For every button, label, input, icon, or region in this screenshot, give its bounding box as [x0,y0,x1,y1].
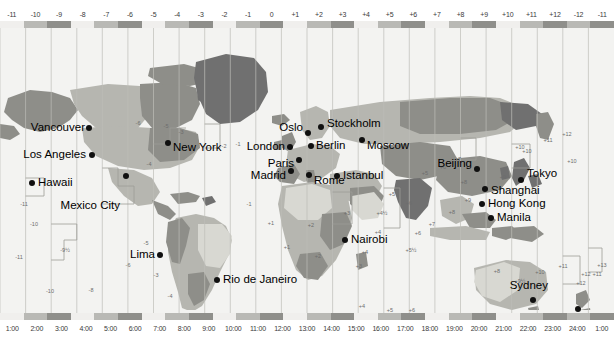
zone-offset-note: +5 [389,191,395,197]
city-label: Hong Kong [488,198,546,210]
world-landmass-graphic [0,28,614,313]
city-marker[interactable] [575,306,581,312]
city-marker[interactable] [123,173,129,179]
zone-offset-note: -3 [179,129,184,135]
utc-offset-tick: +6 [409,11,417,18]
timezone-band-cell [118,21,142,28]
city-marker[interactable] [308,143,314,149]
utc-offset-tick: +5 [386,11,394,18]
city-marker[interactable] [318,124,324,130]
city-marker[interactable] [482,186,488,192]
local-time-ruler: 1:002:003:004:005:006:007:008:009:0010:0… [0,320,614,341]
city-label: Oslo [279,122,303,134]
city-marker[interactable] [306,172,312,178]
timezone-band-cell [449,313,473,320]
utc-offset-tick: -9 [56,11,62,18]
utc-offset-tick: -5 [151,11,157,18]
city-marker[interactable] [488,215,494,221]
city-marker[interactable] [530,297,536,303]
city-label: Hawaii [38,177,73,189]
timezone-band-cell [24,313,48,320]
zone-offset-note: +5 [422,170,428,176]
city-marker[interactable] [89,152,95,158]
timezone-band-cell [283,313,307,320]
timezone-band-cell [472,313,496,320]
timezone-band-cell [520,313,544,320]
local-time-tick: 3:00 [55,325,68,332]
timezone-band-cell [24,21,48,28]
zone-offset-note: +8 [494,268,500,274]
local-time-tick: 6:00 [129,325,142,332]
zone-offset-note: +7 [429,221,435,227]
local-time-tick: 2:00 [30,325,43,332]
city-marker[interactable] [359,137,365,143]
timezone-band-cell [472,21,496,28]
timezone-band-cell [0,313,24,320]
city-marker[interactable] [287,144,293,150]
timezone-band-cell [520,21,544,28]
zone-offset-note: +5½ [406,247,417,253]
utc-offset-tick: -8 [80,11,86,18]
city-marker[interactable] [165,140,171,146]
zone-offset-note: +10 [515,144,524,150]
zone-offset-note: -6 [126,262,131,268]
zone-offset-note: -10 [46,288,54,294]
local-time-tick: 20:00 [471,325,488,332]
city-marker[interactable] [296,157,302,163]
city-label: Vancouver [31,122,85,134]
utc-offset-tick: 0 [270,11,274,18]
local-time-tick: 11:00 [250,325,266,332]
timezone-band-cell [260,21,284,28]
zone-offset-note: +9 [500,174,506,180]
local-time-tick: 24:00 [569,325,586,332]
city-marker[interactable] [305,130,311,136]
city-marker[interactable] [474,166,480,172]
city-label: Madrid [251,170,286,182]
city-marker[interactable] [479,201,485,207]
timezone-band-cell [567,313,591,320]
timezone-band-cell [425,313,449,320]
city-label: New York [173,142,222,154]
zone-offset-note: +1 [268,220,274,226]
zone-offset-note: -2 [222,143,227,149]
city-marker[interactable] [518,177,524,183]
utc-offset-tick: -7 [103,11,109,18]
timezone-band-cell [236,21,260,28]
timezone-band-cell [283,21,307,28]
local-time-tick: 5:00 [104,325,117,332]
zone-offset-note: -8 [89,287,94,293]
zone-offset-note: +3 [356,263,362,269]
city-marker[interactable] [334,173,340,179]
local-time-tick: 19:00 [446,325,463,332]
utc-offset-tick: -12 [574,11,584,18]
utc-offset-tick: -3 [198,11,204,18]
timezone-band-cell [165,21,189,28]
timezone-band-cell [378,21,402,28]
utc-offset-tick: +8 [457,11,465,18]
city-marker[interactable] [342,237,348,243]
city-marker[interactable] [29,180,35,186]
world-timezone-map: -11-10-9-8-7-6-5-4-3-2-10+1+2+3+4+5+6+7+… [0,0,614,341]
zone-offset-note: +8 [461,179,467,185]
timezone-band-cell [567,21,591,28]
utc-offset-tick: +1 [291,11,299,18]
city-marker[interactable] [214,277,220,283]
utc-offset-color-band [0,21,614,28]
zone-offset-note: +11 [544,137,553,143]
zone-offset-note: +6 [415,230,421,236]
local-time-tick: 18:00 [422,325,439,332]
city-marker[interactable] [157,252,163,258]
utc-offset-tick: -2 [221,11,227,18]
city-label: Moscow [367,140,409,152]
timezone-band-cell [94,21,118,28]
city-label: Shanghai [491,185,540,197]
zone-offset-note: -6 [136,120,141,126]
timezone-band-cell [378,313,402,320]
zone-offset-note: -4 [168,293,173,299]
zone-offset-note: -9½ [60,247,69,253]
city-label: London [247,141,285,153]
city-marker[interactable] [86,125,92,131]
timezone-band-cell [0,21,24,28]
zone-offset-note: +11 [593,271,602,277]
zone-offset-note: +10 [567,158,576,164]
